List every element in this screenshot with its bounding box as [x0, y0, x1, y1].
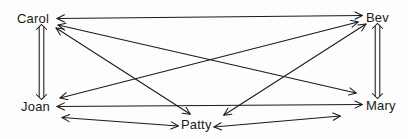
- node-label-joan: Joan: [21, 100, 50, 114]
- node-label-mary: Mary: [366, 99, 396, 113]
- sociogram-diagram: Carol Bev Joan Mary Patty: [0, 0, 408, 139]
- edge-carol-bev: [57, 16, 362, 19]
- node-label-bev: Bev: [366, 11, 389, 25]
- edge-carol-joan: [36, 25, 46, 100]
- edge-joan-patty: [62, 118, 178, 127]
- node-label-carol: Carol: [17, 12, 49, 26]
- edge-joan-mary: [57, 105, 362, 107]
- edge-joan-bev: [60, 22, 358, 98]
- edge-bev-mary: [372, 24, 382, 99]
- node-label-patty: Patty: [181, 118, 212, 132]
- edge-patty-mary: [214, 116, 340, 127]
- edge-carol-patty: [56, 28, 190, 114]
